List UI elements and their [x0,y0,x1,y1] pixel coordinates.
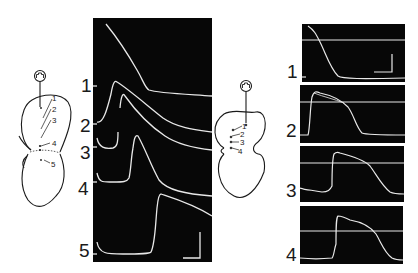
trace-label-5: 5 [79,241,90,260]
right-trace-label-1: 1 [287,62,298,81]
right-trace-panel-1 [302,24,405,82]
scale-bar [374,54,392,72]
right-trace-label-2: 2 [286,121,297,140]
trace-label-1: 1 [81,76,92,95]
site-label-1: 1 [52,94,56,103]
left-heart-diagram: 1 2 3 4 5 [0,0,92,273]
trace-label-3: 3 [80,143,91,162]
right-trace-panel-4 [300,206,403,264]
site-label-4: 4 [52,139,56,148]
right-trace-panel-2 [300,85,405,143]
right-heart-diagram: 1 2 3 4 [212,60,272,200]
left-trace-panel [93,18,212,262]
right-trace-panel-3 [300,146,404,202]
site-label-3: 3 [52,116,56,125]
site-label-2: 2 [52,105,56,114]
trace-label-4: 4 [78,179,89,198]
site-label-4: 4 [238,147,242,156]
site-label-3: 3 [240,138,244,147]
right-trace-label-4: 4 [286,245,297,264]
trace-label-2: 2 [80,116,91,135]
right-trace-label-3: 3 [286,181,297,200]
scale-bar [183,232,200,258]
site-label-5: 5 [51,160,55,169]
